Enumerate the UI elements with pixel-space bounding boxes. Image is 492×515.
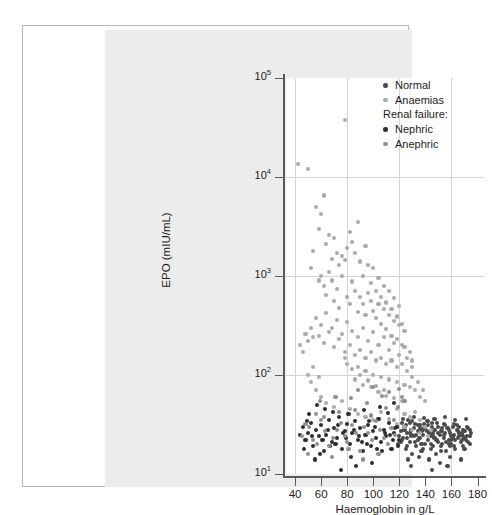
data-point-anaemias xyxy=(376,390,380,394)
data-point-normal xyxy=(447,428,451,432)
data-point-anaemias xyxy=(416,380,420,384)
data-point-anaemias xyxy=(356,220,360,224)
data-point-normal xyxy=(468,428,472,432)
data-point-anaemias xyxy=(395,314,399,318)
data-point-anaemias xyxy=(348,302,352,306)
data-point-nephric xyxy=(375,447,379,451)
x-tick-label-7: 180 xyxy=(458,489,492,501)
data-point-anaemias xyxy=(369,350,373,354)
data-point-anaemias xyxy=(361,274,365,278)
y-axis-title: EPO (mIU/mL) xyxy=(160,180,172,320)
data-point-anephric xyxy=(335,428,339,432)
data-point-anephric xyxy=(330,455,334,459)
data-point-normal xyxy=(443,415,447,419)
data-point-normal xyxy=(438,461,442,465)
data-point-anephric xyxy=(306,452,310,456)
data-point-anaemias xyxy=(356,365,360,369)
data-point-anaemias xyxy=(363,356,367,360)
legend-label-nephric: Nephric xyxy=(395,122,433,137)
data-point-anaemias xyxy=(369,281,373,285)
data-point-anaemias xyxy=(348,230,352,234)
data-point-anephric xyxy=(322,415,326,419)
x-tick-1 xyxy=(321,478,322,486)
data-point-normal xyxy=(464,417,468,421)
data-point-anaemias xyxy=(327,270,331,274)
data-point-nephric xyxy=(391,438,395,442)
data-point-anaemias xyxy=(387,377,391,381)
legend-marker-anaemias xyxy=(383,98,388,103)
data-point-anaemias xyxy=(353,353,357,357)
legend-item-nephric: Nephric xyxy=(383,122,483,137)
data-point-anaemias xyxy=(314,205,318,209)
y-tick-3 xyxy=(275,177,284,178)
data-point-anaemias xyxy=(358,259,362,263)
data-point-nephric xyxy=(339,468,343,472)
data-point-normal xyxy=(442,422,446,426)
gridline-y-100 xyxy=(286,375,484,376)
data-point-normal xyxy=(412,415,416,419)
figure-panel: 101102103104105406080100120140160180 EPO… xyxy=(105,30,412,487)
x-axis-spine xyxy=(283,476,486,478)
data-point-normal xyxy=(421,447,425,451)
data-point-nephric xyxy=(314,428,318,432)
data-point-anaemias xyxy=(317,375,321,379)
data-point-anaemias xyxy=(327,233,331,237)
data-point-anephric xyxy=(386,442,390,446)
data-point-anaemias xyxy=(322,284,326,288)
data-point-nephric xyxy=(387,421,391,425)
data-point-normal xyxy=(432,436,436,440)
data-point-anaemias xyxy=(405,356,409,360)
data-point-anephric xyxy=(389,426,393,430)
data-point-anephric xyxy=(369,413,373,417)
x-tick-3 xyxy=(373,478,374,486)
data-point-anaemias xyxy=(366,263,370,267)
data-point-anephric xyxy=(396,405,400,409)
data-point-anaemias xyxy=(343,118,347,122)
data-point-anephric xyxy=(339,421,343,425)
data-point-anaemias xyxy=(400,362,404,366)
x-tick-2 xyxy=(347,478,348,486)
y-tick-label-4: 105 xyxy=(255,71,271,82)
data-point-anaemias xyxy=(309,266,313,270)
data-point-normal xyxy=(427,457,431,461)
data-point-normal xyxy=(443,431,447,435)
data-point-normal xyxy=(430,468,434,472)
data-point-anaemias xyxy=(317,278,321,282)
data-point-anephric xyxy=(303,422,307,426)
data-point-anaemias xyxy=(363,244,367,248)
data-point-nephric xyxy=(320,438,324,442)
data-point-nephric xyxy=(383,431,387,435)
data-point-nephric xyxy=(318,452,322,456)
data-point-anaemias xyxy=(322,193,326,197)
data-point-anaemias xyxy=(343,350,347,354)
legend-label-anaemias: Anaemias xyxy=(395,93,444,108)
data-point-normal xyxy=(452,433,456,437)
data-point-nephric xyxy=(313,457,317,461)
data-point-anephric xyxy=(402,399,406,403)
y-tick-label-3: 104 xyxy=(255,170,271,181)
data-point-anaemias xyxy=(384,300,388,304)
data-point-anephric xyxy=(361,457,365,461)
data-point-anephric xyxy=(333,395,337,399)
legend-label-anephric: Anephric xyxy=(395,137,438,152)
data-point-anephric xyxy=(365,401,369,405)
data-point-anaemias xyxy=(408,415,412,419)
data-point-anephric xyxy=(376,452,380,456)
data-point-anaemias xyxy=(379,356,383,360)
data-point-anaemias xyxy=(429,428,433,432)
data-point-nephric xyxy=(388,433,392,437)
legend-marker-nephric xyxy=(383,127,388,132)
data-point-anaemias xyxy=(402,383,406,387)
data-point-anaemias xyxy=(376,343,380,347)
data-point-anaemias xyxy=(395,365,399,369)
data-point-anaemias xyxy=(369,299,373,303)
y-tick-label-1: 102 xyxy=(255,368,271,379)
data-point-normal xyxy=(417,455,421,459)
data-point-anephric xyxy=(387,390,391,394)
y-tick-1 xyxy=(275,375,284,376)
data-point-anaemias xyxy=(309,326,313,330)
y-tick-2 xyxy=(275,276,284,277)
data-point-nephric xyxy=(389,447,393,451)
data-point-nephric xyxy=(302,447,306,451)
